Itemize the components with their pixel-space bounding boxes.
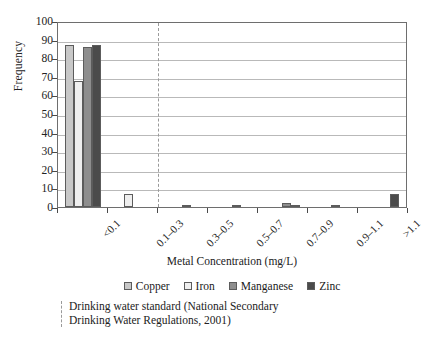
legend-swatch-icon (124, 282, 132, 290)
x-tick-mark (257, 208, 258, 213)
legend-label: Zinc (319, 280, 340, 292)
plot-area (57, 22, 407, 208)
x-tick-label: >1.1 (400, 217, 422, 240)
x-tick-label: 0.9–1.1 (354, 217, 386, 249)
y-tick-label: 100 (36, 16, 53, 28)
bar (65, 45, 74, 207)
bar (282, 203, 291, 207)
drinking-water-standard-line (158, 23, 159, 207)
footnote: Drinking water standard (National Second… (69, 299, 399, 328)
x-axis-title: Metal Concentration (mg/L) (57, 255, 407, 267)
bar-group (207, 23, 257, 207)
x-tick-mark (157, 208, 158, 213)
bar (390, 194, 399, 207)
x-tick-mark (107, 208, 108, 213)
bar (83, 47, 92, 207)
x-tick-mark (357, 208, 358, 213)
bar-group (58, 23, 108, 207)
x-tick-label: 0.5–0.7 (254, 217, 286, 249)
bar (92, 45, 101, 207)
x-tick-label: 0.1–0.3 (154, 217, 186, 249)
legend-swatch-icon (229, 282, 237, 290)
legend-item: Manganese (229, 280, 293, 292)
plot-area-wrapper (57, 22, 407, 208)
y-axis: 0102030405060708090100 (0, 22, 57, 208)
bar (232, 205, 241, 207)
bar-group (157, 23, 207, 207)
x-tick-label: 0.3–0.5 (204, 217, 236, 249)
legend-item: Copper (124, 280, 170, 292)
legend-item: Iron (184, 280, 215, 292)
x-tick-label: 0.7–0.9 (304, 217, 336, 249)
bar (124, 194, 133, 207)
footnote-line-2: Drinking Water Regulations, 2001) (69, 313, 399, 327)
x-axis: <0.10.1–0.30.3–0.50.5–0.70.7–0.90.9–1.1>… (57, 208, 407, 252)
legend-label: Manganese (241, 280, 293, 292)
footnote-dashed-marker-icon (61, 301, 62, 327)
bar (182, 205, 191, 207)
legend-item: Zinc (307, 280, 340, 292)
bar (291, 205, 300, 207)
bar-group (257, 23, 307, 207)
bar (74, 81, 83, 207)
footnote-line-1: Drinking water standard (National Second… (69, 299, 399, 313)
x-tick-mark (407, 208, 408, 213)
legend-swatch-icon (307, 282, 315, 290)
legend: CopperIronManganeseZinc (57, 280, 407, 292)
x-tick-mark (307, 208, 308, 213)
x-tick-label: <0.1 (100, 217, 123, 240)
bar-group (356, 23, 406, 207)
bar-groups (58, 23, 406, 207)
x-tick-mark (57, 208, 58, 213)
legend-label: Iron (196, 280, 215, 292)
x-tick-mark (207, 208, 208, 213)
bar-group (108, 23, 158, 207)
legend-swatch-icon (184, 282, 192, 290)
bar-group (307, 23, 357, 207)
bar (331, 205, 340, 207)
legend-label: Copper (136, 280, 170, 292)
